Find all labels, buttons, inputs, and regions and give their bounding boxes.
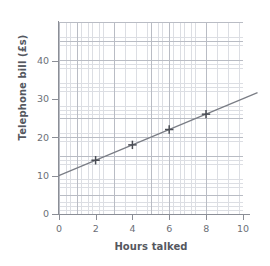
x-axis-tick-2 [96, 214, 97, 220]
x-axis-label-8: 8 [196, 224, 216, 234]
y-axis-line [58, 21, 59, 215]
chart-container: 40 30 20 10 0 0 2 4 6 8 10 Telephone bil… [0, 0, 270, 266]
y-axis-tick-30 [52, 99, 59, 100]
x-axis-label-4: 4 [123, 224, 143, 234]
y-axis-label-30: 30 [37, 94, 49, 104]
y-axis-label-20: 20 [37, 133, 49, 143]
x-axis-label-10: 10 [233, 224, 253, 234]
y-axis-tick-20 [52, 137, 59, 138]
x-axis-title: Hours talked [59, 241, 243, 252]
x-axis-tick-6 [169, 214, 170, 220]
y-axis-label-10: 10 [37, 171, 49, 181]
x-axis-tick-10 [243, 214, 244, 220]
x-axis-line [55, 214, 250, 215]
y-axis-tick-40 [52, 61, 59, 62]
x-axis-label-2: 2 [86, 224, 106, 234]
y-axis-label-0: 0 [43, 209, 49, 219]
x-axis-tick-4 [132, 214, 133, 220]
y-axis-tick-10 [52, 176, 59, 177]
plot-grid-area [59, 22, 243, 214]
x-axis-tick-8 [206, 214, 207, 220]
y-axis-label-40: 40 [37, 56, 49, 66]
y-axis-title: Telephone bill (£s) [17, 18, 28, 158]
x-axis-label-6: 6 [159, 224, 179, 234]
x-axis-tick-0 [59, 214, 60, 220]
x-axis-label-0: 0 [49, 224, 69, 234]
